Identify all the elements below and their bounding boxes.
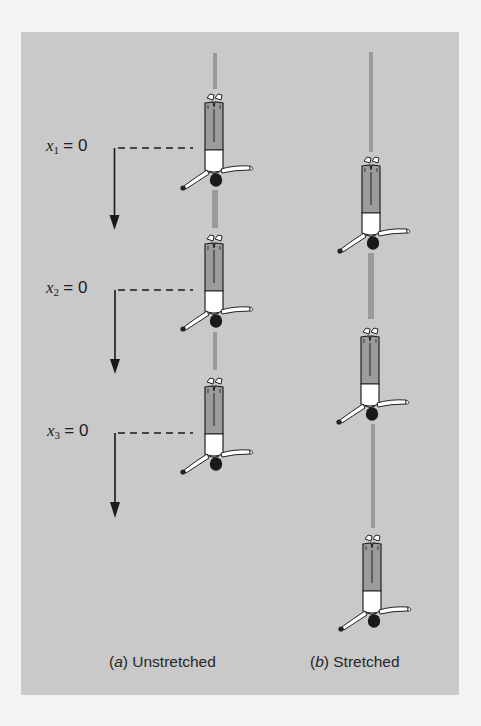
panel-b-stretched (336, 52, 411, 632)
jumper-b-3 (338, 535, 411, 632)
cord-b-2 (368, 253, 374, 319)
cord-a-2 (212, 190, 218, 228)
jumper-b-1 (337, 157, 410, 254)
jumper-a-1 (180, 94, 253, 191)
down-arrow-icon (110, 148, 120, 230)
cord-b-3 (371, 424, 375, 528)
jumper-b-2 (336, 328, 409, 425)
bungee-diagram (0, 0, 481, 726)
caption-b: (b) Stretched (310, 653, 400, 671)
down-arrow-icon (110, 433, 120, 518)
label-x1-equals-0: x1 = 0 (46, 136, 87, 156)
jumper-a-2 (180, 235, 253, 332)
label-x3-equals-0: x3 = 0 (47, 421, 88, 441)
down-arrow-icon (110, 290, 120, 374)
jumper-a-3 (180, 378, 253, 475)
caption-a: (a) Unstretched (109, 653, 216, 671)
cord-a-1 (213, 53, 217, 89)
cord-b-1 (369, 52, 373, 152)
label-x2-equals-0: x2 = 0 (46, 278, 87, 298)
panel-a-unstretched (110, 53, 254, 518)
cord-a-3 (213, 332, 217, 370)
